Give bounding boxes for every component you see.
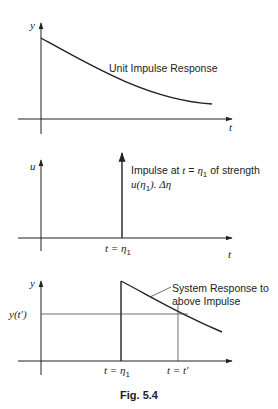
response-annotation-line1: System Response to <box>172 282 269 294</box>
y-axis-label: y <box>29 19 35 31</box>
response-annotation-line2: above Impulse <box>172 295 240 307</box>
figure-caption: Fig. 5.4 <box>120 389 159 401</box>
x-axis-label: t <box>228 248 232 260</box>
panel-system-response: y y(t′) System Response to above Impulse… <box>8 277 269 379</box>
curve-annotation: Unit Impulse Response <box>109 62 218 74</box>
impulse-annotation-line1: Impulse at t = η1 of strength <box>131 164 260 179</box>
y-axis-label: u <box>30 160 36 172</box>
figure-5-4: y t Unit Impulse Response u t Impulse at… <box>0 0 278 409</box>
y-t-prime-label: y(t′) <box>8 308 27 321</box>
x-axis-label: t <box>229 121 233 133</box>
y-axis-label: y <box>29 277 35 289</box>
panel-unit-impulse-response: y t Unit Impulse Response <box>18 19 233 134</box>
panel-input-impulse: u t Impulse at t = η1 of strength u(η1).… <box>18 153 260 260</box>
eta1-tick-label: t = η1 <box>104 364 130 379</box>
impulse-annotation-line2: u(η1). Δη <box>131 178 171 193</box>
t-prime-tick-label: t = t′ <box>167 364 189 376</box>
annotation-leader-line <box>150 287 171 297</box>
impulse-time-label: t = η1 <box>105 242 131 257</box>
